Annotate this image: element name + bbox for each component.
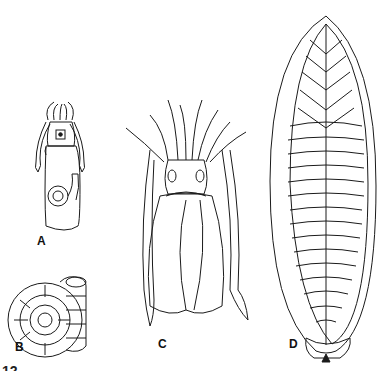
figure-number-fragment: 12 <box>2 362 18 371</box>
panel-label-c: C <box>158 337 167 351</box>
cephalopod-illustration <box>0 0 390 371</box>
panel-label-d: D <box>289 337 298 351</box>
specimen-c-cuttlefish <box>126 100 248 326</box>
specimen-d-cuttlebone <box>270 16 376 362</box>
panel-label-a: A <box>37 234 46 248</box>
panel-label-b: B <box>15 340 24 354</box>
specimen-a-drawing <box>35 102 84 230</box>
